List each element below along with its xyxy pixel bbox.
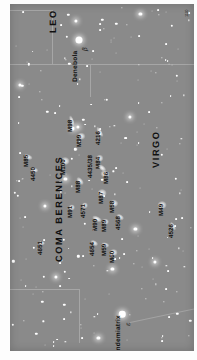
object-label-m87: M87 <box>99 191 105 203</box>
background-star <box>178 48 179 49</box>
object-label-4526: 4526 <box>169 224 175 238</box>
background-star <box>80 79 81 80</box>
background-star <box>92 50 94 52</box>
background-star <box>43 204 46 207</box>
background-star <box>134 227 137 230</box>
background-star <box>167 60 169 62</box>
background-star <box>121 238 123 240</box>
object-label-m88: M88 <box>76 181 82 193</box>
background-star <box>63 318 65 320</box>
background-star <box>25 259 26 260</box>
background-star <box>165 11 166 12</box>
background-star <box>32 246 34 248</box>
object-label-m91: M91 <box>68 206 74 218</box>
background-star <box>56 339 58 341</box>
background-star <box>101 18 103 20</box>
background-star <box>139 187 140 188</box>
object-label-m98: M98 <box>68 120 74 132</box>
background-star <box>32 51 34 53</box>
background-star <box>22 227 23 228</box>
background-star <box>152 278 153 279</box>
background-star <box>178 248 179 249</box>
background-star <box>63 303 65 305</box>
object-label-4435-38: 4435/38 <box>88 154 94 177</box>
background-star <box>151 71 152 72</box>
background-star <box>77 255 79 257</box>
background-star <box>19 180 21 182</box>
background-star <box>176 291 177 292</box>
object-label-4450: 4450 <box>31 167 37 181</box>
background-star <box>136 132 137 133</box>
background-star <box>111 267 114 270</box>
background-star <box>174 178 176 180</box>
background-star <box>60 24 62 26</box>
background-star <box>100 24 102 26</box>
background-star <box>166 266 167 267</box>
background-star <box>43 276 45 278</box>
background-star <box>46 111 48 113</box>
background-star <box>18 123 20 125</box>
background-star <box>108 293 109 294</box>
background-star <box>107 270 108 271</box>
object-label-m59: M59 <box>102 243 108 255</box>
constellation-boundary-line <box>90 64 91 97</box>
background-star <box>161 341 163 343</box>
constellation-boundary-line <box>10 10 52 11</box>
sky-plate: M8544504651M98M994216M100M844435/38M86M8… <box>10 4 194 351</box>
background-star <box>103 28 104 29</box>
background-star <box>106 98 108 100</box>
background-star <box>142 267 143 268</box>
background-star <box>114 194 115 195</box>
background-star <box>138 79 139 80</box>
background-star <box>157 9 159 11</box>
background-star <box>184 266 185 267</box>
background-star <box>183 251 184 252</box>
background-star <box>92 58 93 59</box>
background-star <box>91 189 92 190</box>
background-star <box>156 127 157 128</box>
background-star <box>64 178 67 181</box>
object-label-4571: 4571 <box>81 204 87 218</box>
background-star <box>81 328 82 329</box>
background-star <box>138 35 140 37</box>
background-star <box>115 167 117 169</box>
constellation-boundary-line <box>79 289 80 343</box>
background-star <box>148 248 149 249</box>
background-star <box>11 323 13 325</box>
background-star <box>111 39 112 40</box>
background-star <box>47 49 48 50</box>
object-label-4216: 4216 <box>96 131 102 145</box>
background-star <box>18 96 20 98</box>
background-star <box>165 59 167 61</box>
background-star <box>23 11 25 13</box>
background-star <box>97 313 99 315</box>
corner-mark: 1110 <box>184 10 189 17</box>
object-label-m58: M58 <box>110 201 116 213</box>
background-star <box>22 178 23 179</box>
background-star <box>54 112 56 114</box>
background-star <box>65 192 66 193</box>
background-star <box>74 20 77 23</box>
background-star <box>179 193 180 194</box>
background-star <box>80 324 81 325</box>
object-label-m90: M90 <box>93 218 99 230</box>
background-star <box>74 148 76 150</box>
background-star <box>19 217 20 218</box>
background-star <box>162 335 164 337</box>
background-star <box>126 137 128 139</box>
background-star <box>152 257 154 259</box>
background-star <box>144 123 145 124</box>
background-star <box>94 333 95 334</box>
object-label-m99: M99 <box>77 134 83 146</box>
background-star <box>99 72 100 73</box>
background-star <box>137 250 138 251</box>
background-star <box>41 301 43 303</box>
background-star <box>70 312 71 313</box>
background-star <box>53 341 55 343</box>
background-star <box>59 286 61 288</box>
background-star <box>97 336 100 339</box>
background-star <box>14 192 16 194</box>
background-star <box>128 115 131 118</box>
background-star <box>88 180 90 182</box>
greek-letter-vindemiatrix: ε <box>125 322 132 326</box>
